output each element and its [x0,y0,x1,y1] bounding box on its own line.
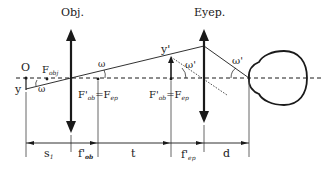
common-focus-right-label: F'ob=Fep [149,90,189,101]
angle-arc-omega-mid [104,70,105,78]
angle-arc-omega-left [36,80,37,86]
dim-label-fob: f'ob [78,148,93,160]
angle-arc-omega-prime-eye [231,68,236,78]
object-height-label: y [15,84,21,95]
objective-label: Obj. [61,7,84,18]
dim-arrow-fep-icon [196,141,203,145]
focal-point-objective-label: Fobj [42,65,58,76]
objective-arrow-up-icon [66,29,76,41]
eyepiece-label: Eyep. [194,7,225,18]
dim-arrow-d-icon [241,141,248,145]
angle-omega-left-label: ω [38,85,45,94]
focal-point-objective-dot [46,78,49,81]
common-focus-left-label: F'ob=Fep [78,90,118,101]
dim-label-fep: f'ep [181,149,196,161]
object-point-dot [24,76,27,79]
dim-arrow-fob-icon [90,141,97,145]
object-point-label: O [21,62,30,73]
dim-label-s1: s1 [44,148,53,160]
eyepiece-arrow-up-icon [199,29,209,41]
eyepiece-arrow-down-icon [199,111,209,123]
image-focus-dot [170,78,173,81]
dim-arrow-s1-icon [27,141,34,145]
common-focus-dot [97,78,100,81]
dim-label-t: t [131,148,135,159]
objective-arrow-down-icon [66,121,76,133]
image-height-label: y' [161,44,170,55]
angle-omega-prime-eye-label: ω' [232,56,243,66]
dim-label-d: d [223,148,230,159]
angle-omega-mid-label: ω [98,60,105,69]
angle-omega-prime-image-label: ω' [185,60,196,70]
dim-arrow-t-icon [163,141,170,145]
